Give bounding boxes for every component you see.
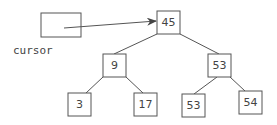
node-value: 53	[187, 99, 201, 112]
edge-left-leftright	[126, 77, 143, 93]
edge-left-leftleft	[86, 77, 103, 93]
tree-node-left: 9	[103, 54, 126, 77]
cursor-label: cursor	[13, 44, 53, 57]
tree-node-root: 45	[157, 11, 180, 34]
edge-right-rightleft	[194, 77, 217, 94]
tree-node-right-left: 53	[182, 94, 205, 117]
cursor-box	[41, 13, 81, 37]
tree-node-right: 53	[208, 54, 231, 77]
node-value: 17	[139, 98, 153, 111]
tree-node-right-right: 54	[239, 91, 262, 114]
node-value: 9	[111, 59, 118, 72]
node-value: 54	[244, 96, 258, 109]
edge-root-left	[114, 34, 157, 54]
edge-root-right	[180, 34, 219, 54]
tree-node-left-left: 3	[68, 93, 91, 116]
edge-right-rightright	[230, 77, 245, 91]
node-value: 3	[76, 98, 83, 111]
tree-node-left-right: 17	[134, 93, 157, 116]
node-value: 53	[213, 59, 227, 72]
node-value: 45	[162, 16, 176, 29]
tree-diagram: cursor 45 9 53 3 17 53 54	[0, 0, 277, 125]
